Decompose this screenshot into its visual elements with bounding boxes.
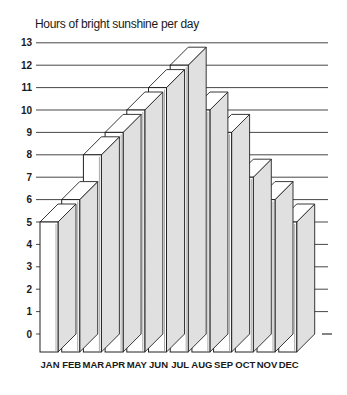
y-tick-label: 7 bbox=[26, 172, 32, 183]
bar-jan bbox=[40, 204, 76, 352]
x-axis: JANFEBMARAPRMAYJUNJULAUGSEPOCTNOVDEC bbox=[40, 359, 298, 370]
x-tick-label: MAY bbox=[127, 359, 148, 370]
y-tick-label: 0 bbox=[26, 329, 32, 340]
x-tick-label: JUL bbox=[171, 359, 189, 370]
y-tick-label: 5 bbox=[26, 217, 32, 228]
y-tick-label: 10 bbox=[21, 105, 33, 116]
x-tick-label: SEP bbox=[214, 359, 234, 370]
y-tick-label: 13 bbox=[21, 37, 33, 48]
bar-chart: 012345678910111213JANFEBMARAPRMAYJUNJULA… bbox=[0, 0, 347, 395]
y-tick-label: 8 bbox=[26, 149, 32, 160]
y-tick-label: 3 bbox=[26, 261, 32, 272]
y-tick-label: 11 bbox=[21, 82, 32, 93]
x-tick-label: NOV bbox=[257, 359, 278, 370]
x-tick-label: APR bbox=[105, 359, 125, 370]
y-tick-label: 12 bbox=[21, 60, 33, 71]
y-tick-label: 4 bbox=[26, 239, 32, 250]
x-tick-label: DEC bbox=[279, 359, 299, 370]
x-tick-label: MAR bbox=[83, 359, 105, 370]
x-tick-label: JAN bbox=[40, 359, 59, 370]
y-tick-label: 9 bbox=[26, 127, 32, 138]
x-tick-label: JUN bbox=[149, 359, 168, 370]
x-tick-label: AUG bbox=[191, 359, 212, 370]
bars bbox=[40, 47, 315, 352]
y-tick-label: 2 bbox=[26, 284, 32, 295]
y-tick-label: 1 bbox=[26, 306, 32, 317]
y-tick-label: 6 bbox=[26, 194, 32, 205]
x-tick-label: FEB bbox=[62, 359, 81, 370]
x-tick-label: OCT bbox=[235, 359, 255, 370]
